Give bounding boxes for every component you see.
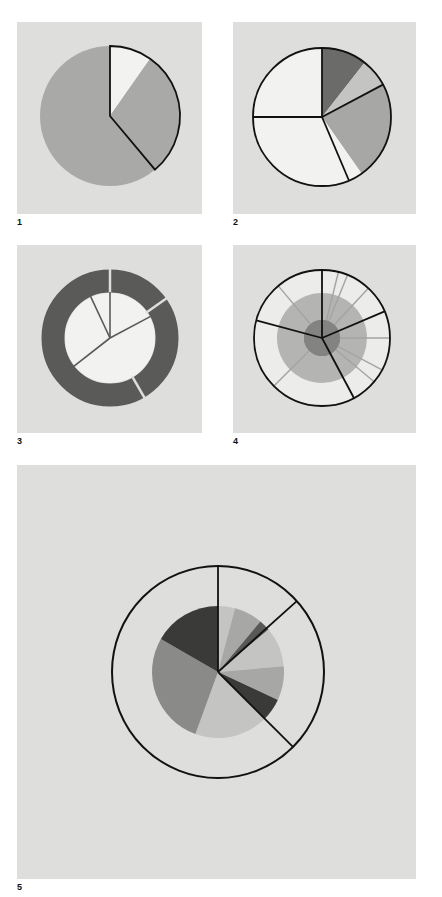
figure-5-label: 5	[17, 883, 22, 892]
figure-4-label: 4	[233, 437, 238, 446]
figure-3-label: 3	[17, 437, 22, 446]
figure-1-panel	[17, 22, 202, 214]
figure-2-pie-chart	[233, 22, 416, 214]
figure-3-donut-chart	[17, 245, 202, 433]
figure-2-label: 2	[233, 218, 238, 227]
pie-slice	[253, 48, 322, 117]
figure-2-panel	[233, 22, 416, 214]
figure-4-concentric-chart	[233, 245, 416, 433]
figure-1-label: 1	[17, 218, 22, 227]
figure-5-panel	[17, 465, 416, 879]
figure-1-pie-chart	[17, 22, 202, 214]
figure-5-pie-chart	[17, 465, 416, 879]
figure-4-panel	[233, 245, 416, 433]
figure-3-panel	[17, 245, 202, 433]
